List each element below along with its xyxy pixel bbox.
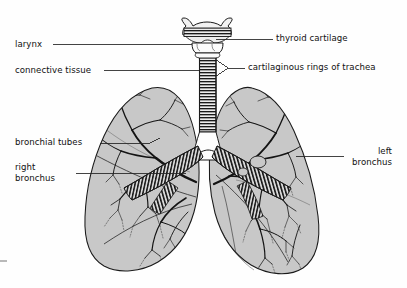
label-cartilaginous-rings-of-trachea: cartilaginous rings of trachea	[248, 62, 376, 73]
label-left-bronchus-line1: left	[330, 146, 392, 157]
label-left-bronchus-line2: bronchus	[330, 157, 392, 168]
edge-artifact-mark	[0, 260, 7, 262]
label-right-bronchus: right bronchus	[15, 162, 55, 183]
leader-bronchial-tubes-hook	[150, 138, 160, 143]
label-right-bronchus-line2: bronchus	[15, 173, 55, 184]
label-connective-tissue: connective tissue	[15, 65, 91, 76]
label-larynx: larynx	[15, 39, 42, 50]
label-left-bronchus: left bronchus	[330, 146, 392, 167]
label-thyroid-cartilage: thyroid cartilage	[276, 33, 348, 44]
leader-cartilaginous-rings-bracket	[216, 60, 228, 76]
label-right-bronchus-line1: right	[15, 162, 55, 173]
label-bronchial-tubes: bronchial tubes	[15, 137, 82, 148]
diagram-canvas: larynx connective tissue bronchial tubes…	[0, 0, 407, 288]
